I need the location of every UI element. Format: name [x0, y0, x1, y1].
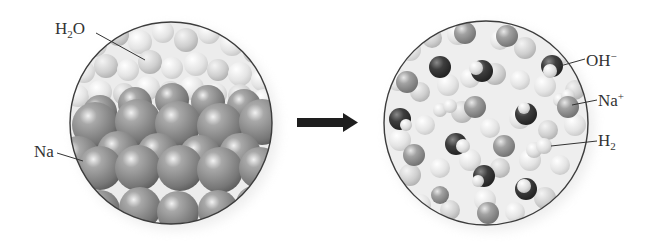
label-hydroxide: OH−	[586, 51, 617, 69]
label-sodium: Na	[34, 143, 54, 160]
label-hydrogen: H2	[598, 132, 616, 152]
label-sodium-ion: Na+	[598, 91, 624, 109]
label-water-tail: O	[73, 19, 85, 38]
reactant-panel	[56, 15, 290, 235]
label-hydrogen-base: H	[598, 131, 610, 150]
label-sodium-ion-charge: +	[618, 90, 624, 102]
reaction-diagram: H2O Na OH− Na+ H2	[0, 0, 660, 248]
label-sodium-base: Na	[34, 142, 54, 161]
label-hydroxide-charge: −	[611, 50, 617, 62]
product-panel	[380, 15, 595, 235]
reaction-arrow	[297, 113, 358, 132]
label-hydrogen-subscript: 2	[610, 140, 616, 152]
label-water-base: H	[55, 19, 67, 38]
label-sodium-ion-base: Na	[598, 91, 618, 110]
label-hydroxide-base: OH	[586, 51, 611, 70]
diagram-canvas	[0, 0, 660, 248]
label-water: H2O	[55, 20, 85, 40]
sodium-atoms	[56, 83, 285, 233]
